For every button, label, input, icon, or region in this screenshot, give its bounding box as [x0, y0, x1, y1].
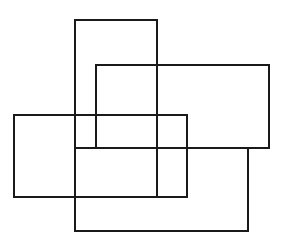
rect-wide-bottom	[75, 148, 248, 231]
rect-tall-center	[75, 20, 157, 197]
rect-wide-upper-right	[96, 65, 269, 148]
rect-wide-left	[14, 115, 187, 197]
overlapping-rectangles-diagram	[0, 0, 284, 246]
diagram-canvas	[0, 0, 284, 246]
